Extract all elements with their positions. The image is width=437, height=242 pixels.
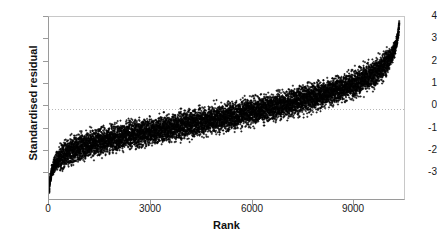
x-tick-label-3000: 3000 (120, 203, 180, 214)
plot-area (48, 16, 405, 200)
x-tick-label-0: 0 (18, 203, 78, 214)
x-tick-label-6000: 6000 (222, 203, 282, 214)
x-axis-title: Rank (48, 219, 405, 231)
scatter-plot-canvas (49, 17, 405, 200)
chart-figure: Standardised residual 4 3 2 1 0 -1 -2 -3… (0, 0, 437, 242)
x-tick-label-9000: 9000 (323, 203, 383, 214)
y-axis-title: Standardised residual (27, 18, 39, 188)
